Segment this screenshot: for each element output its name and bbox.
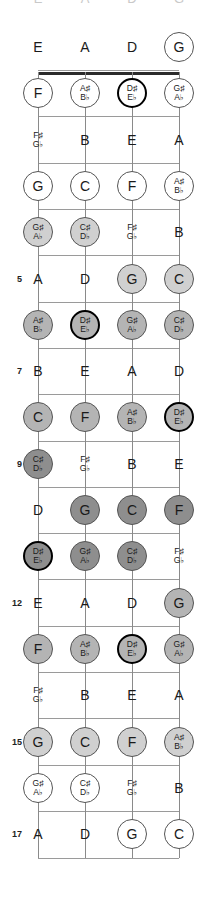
- note-fret17-string-d[interactable]: G: [117, 819, 147, 849]
- note-text-enharmonic: E♭: [127, 649, 137, 658]
- note-fret5-string-d[interactable]: G: [117, 264, 147, 294]
- note-fret2-string-e[interactable]: F♯G♭: [21, 131, 55, 149]
- note-fret10-string-e[interactable]: D: [21, 501, 55, 519]
- note-fret1-string-e[interactable]: F: [23, 78, 53, 108]
- note-fret5-string-a[interactable]: D: [68, 270, 102, 288]
- note-text-enharmonic: G♭: [127, 788, 138, 797]
- note-text: C: [80, 179, 90, 193]
- note-label: B: [80, 133, 89, 147]
- note-fret16-string-g[interactable]: B: [162, 779, 196, 797]
- note-label: C♯D♭: [127, 547, 137, 564]
- note-text: G: [127, 827, 138, 841]
- note-fret16-string-e[interactable]: G♯A♭: [23, 773, 53, 803]
- note-text-enharmonic: G♭: [33, 140, 44, 149]
- note-label: D: [127, 40, 137, 54]
- note-fret2-string-a[interactable]: B: [68, 131, 102, 149]
- note-fret4-string-g[interactable]: B: [162, 223, 196, 241]
- note-fret13-string-e[interactable]: F: [23, 634, 53, 664]
- note-fret11-string-d[interactable]: C♯D♭: [117, 541, 147, 571]
- note-fret10-string-d[interactable]: C: [117, 495, 147, 525]
- note-text: B: [174, 225, 183, 239]
- note-fret11-string-a[interactable]: G♯A♭: [70, 541, 100, 571]
- note-fret1-string-d[interactable]: D♯E♭: [117, 78, 147, 108]
- note-fret16-string-d[interactable]: F♯G♭: [115, 779, 149, 797]
- note-fret6-string-a[interactable]: D♯E♭: [70, 310, 100, 340]
- note-fret3-string-d[interactable]: F: [117, 171, 147, 201]
- note-fret9-string-g[interactable]: E: [162, 455, 196, 473]
- note-fret7-string-d[interactable]: A: [115, 362, 149, 380]
- note-fret12-string-a[interactable]: A: [68, 594, 102, 612]
- note-fret9-string-d[interactable]: B: [115, 455, 149, 473]
- note-fret8-string-g[interactable]: D♯E♭: [164, 402, 194, 432]
- note-fret6-string-d[interactable]: G♯A♭: [117, 310, 147, 340]
- note-fret4-string-d[interactable]: F♯G♭: [115, 223, 149, 241]
- note-fret12-string-d[interactable]: D: [115, 594, 149, 612]
- note-fret10-string-a[interactable]: G: [70, 495, 100, 525]
- note-fret0-string-e[interactable]: E: [21, 38, 55, 56]
- note-fret8-string-d[interactable]: A♯B♭: [117, 402, 147, 432]
- note-fret15-string-g[interactable]: A♯B♭: [164, 727, 194, 757]
- note-fret3-string-e[interactable]: G: [23, 171, 53, 201]
- note-fret0-string-a[interactable]: A: [68, 38, 102, 56]
- note-fret3-string-a[interactable]: C: [70, 171, 100, 201]
- note-fret6-string-g[interactable]: C♯D♭: [164, 310, 194, 340]
- note-fret16-string-a[interactable]: C♯D♭: [70, 773, 100, 803]
- note-fret14-string-a[interactable]: B: [68, 686, 102, 704]
- note-label: D♯E♭: [80, 316, 90, 333]
- note-fret15-string-e[interactable]: G: [23, 727, 53, 757]
- note-fret17-string-a[interactable]: D: [68, 825, 102, 843]
- note-fret1-string-a[interactable]: A♯B♭: [70, 78, 100, 108]
- note-fret6-string-e[interactable]: A♯B♭: [23, 310, 53, 340]
- note-text: A: [127, 364, 136, 378]
- fret-wire-end: [38, 858, 179, 859]
- fret-number-12: 12: [6, 598, 22, 608]
- note-fret14-string-d[interactable]: E: [115, 686, 149, 704]
- note-fret17-string-e[interactable]: A: [21, 825, 55, 843]
- note-fret12-string-e[interactable]: E: [21, 594, 55, 612]
- note-fret9-string-e[interactable]: C♯D♭: [23, 449, 53, 479]
- note-fret11-string-g[interactable]: F♯G♭: [162, 547, 196, 565]
- note-fret17-string-g[interactable]: C: [164, 819, 194, 849]
- note-label: E: [80, 364, 89, 378]
- note-label: F: [34, 86, 43, 100]
- note-label: B: [33, 364, 42, 378]
- note-fret11-string-e[interactable]: D♯E♭: [23, 541, 53, 571]
- note-fret4-string-a[interactable]: C♯D♭: [70, 217, 100, 247]
- note-fret4-string-e[interactable]: G♯A♭: [23, 217, 53, 247]
- note-text-enharmonic: E♭: [174, 417, 184, 426]
- note-fret0-string-g[interactable]: G: [164, 32, 194, 62]
- note-fret15-string-d[interactable]: F: [117, 727, 147, 757]
- note-fret0-string-d[interactable]: D: [115, 38, 149, 56]
- note-fret2-string-g[interactable]: A: [162, 131, 196, 149]
- fret-wire: [38, 163, 179, 164]
- fret-number-5: 5: [6, 274, 22, 284]
- note-label: D♯E♭: [174, 408, 184, 425]
- note-fret7-string-a[interactable]: E: [68, 362, 102, 380]
- note-fret13-string-d[interactable]: D♯E♭: [117, 634, 147, 664]
- note-fret15-string-a[interactable]: C: [70, 727, 100, 757]
- note-label: C: [80, 179, 90, 193]
- note-fret7-string-g[interactable]: D: [162, 362, 196, 380]
- note-text: G: [174, 40, 185, 54]
- note-fret3-string-g[interactable]: A♯B♭: [164, 171, 194, 201]
- note-fret5-string-e[interactable]: A: [21, 270, 55, 288]
- note-label: B: [174, 781, 183, 795]
- note-fret7-string-e[interactable]: B: [21, 362, 55, 380]
- note-fret9-string-a[interactable]: F♯G♭: [68, 455, 102, 473]
- note-fret12-string-g[interactable]: G: [164, 588, 194, 618]
- note-fret14-string-e[interactable]: F♯G♭: [21, 686, 55, 704]
- note-fret10-string-g[interactable]: F: [164, 495, 194, 525]
- note-label: G♯A♭: [174, 640, 185, 657]
- note-fret5-string-g[interactable]: C: [164, 264, 194, 294]
- note-fret8-string-e[interactable]: C: [23, 402, 53, 432]
- note-text: F: [128, 735, 137, 749]
- note-fret2-string-d[interactable]: E: [115, 131, 149, 149]
- note-text: B: [80, 688, 89, 702]
- note-fret13-string-a[interactable]: A♯B♭: [70, 634, 100, 664]
- note-label: C: [80, 735, 90, 749]
- note-fret13-string-g[interactable]: G♯A♭: [164, 634, 194, 664]
- note-fret14-string-g[interactable]: A: [162, 686, 196, 704]
- note-fret1-string-g[interactable]: G♯A♭: [164, 78, 194, 108]
- note-text: E: [127, 133, 136, 147]
- note-fret8-string-a[interactable]: F: [70, 402, 100, 432]
